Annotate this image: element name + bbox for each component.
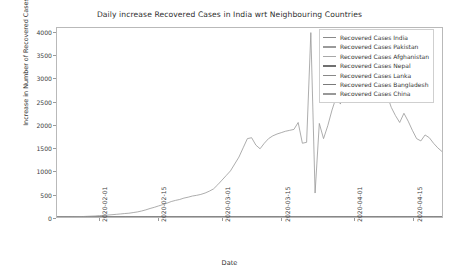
- legend-label: Recovered Cases Nepal: [340, 61, 411, 70]
- legend-item[interactable]: Recovered Cases India: [323, 33, 429, 42]
- x-tick-mark: [281, 218, 282, 221]
- x-tick-mark: [354, 218, 355, 221]
- chart-legend: Recovered Cases IndiaRecovered Cases Pak…: [319, 29, 434, 103]
- y-tick-label: 0: [30, 215, 52, 222]
- legend-color-swatch: [323, 56, 336, 57]
- legend-color-swatch: [323, 37, 336, 38]
- y-tick-mark: [53, 218, 56, 219]
- legend-color-swatch: [323, 65, 336, 66]
- legend-color-swatch: [323, 46, 336, 47]
- y-axis-label: Increase in Number of Recovered Cases: [22, 0, 30, 132]
- y-tick-label: 1000: [30, 168, 52, 175]
- legend-label: Recovered Cases Lanka: [340, 71, 411, 80]
- legend-color-swatch: [323, 84, 336, 85]
- legend-item[interactable]: Recovered Cases Lanka: [323, 71, 429, 80]
- y-tick-label: 3000: [30, 75, 52, 82]
- legend-item[interactable]: Recovered Cases Pakistan: [323, 42, 429, 51]
- x-axis-label: Date: [0, 259, 459, 267]
- y-tick-label: 3500: [30, 51, 52, 58]
- legend-item[interactable]: Recovered Cases Nepal: [323, 61, 429, 70]
- legend-item[interactable]: Recovered Cases China: [323, 89, 429, 98]
- y-tick-label: 500: [30, 191, 52, 198]
- x-tick-label: 2020-03-01: [224, 187, 231, 222]
- legend-label: Recovered Cases Afghanistan: [340, 52, 429, 61]
- legend-label: Recovered Cases India: [340, 33, 408, 42]
- x-tick-label: 2020-03-15: [284, 187, 291, 222]
- y-tick-label: 4000: [30, 28, 52, 35]
- y-tick-label: 1500: [30, 145, 52, 152]
- x-tick-mark: [413, 218, 414, 221]
- x-tick-label: 2020-04-01: [356, 187, 363, 222]
- x-tick-mark: [99, 218, 100, 221]
- chart-title: Daily increase Recovered Cases in India …: [0, 10, 459, 19]
- y-tick-label: 2500: [30, 98, 52, 105]
- legend-label: Recovered Cases Bangladesh: [340, 80, 428, 89]
- legend-color-swatch: [323, 75, 336, 76]
- legend-label: Recovered Cases China: [340, 89, 410, 98]
- x-tick-label: 2020-04-15: [416, 187, 423, 222]
- legend-item[interactable]: Recovered Cases Bangladesh: [323, 80, 429, 89]
- legend-label: Recovered Cases Pakistan: [340, 42, 418, 51]
- chart-figure: Daily increase Recovered Cases in India …: [0, 0, 459, 278]
- x-tick-label: 2020-02-15: [160, 187, 167, 222]
- y-tick-label: 2000: [30, 121, 52, 128]
- x-tick-mark: [158, 218, 159, 221]
- legend-color-swatch: [323, 93, 336, 94]
- legend-item[interactable]: Recovered Cases Afghanistan: [323, 52, 429, 61]
- x-tick-label: 2020-02-01: [101, 187, 108, 222]
- x-tick-mark: [222, 218, 223, 221]
